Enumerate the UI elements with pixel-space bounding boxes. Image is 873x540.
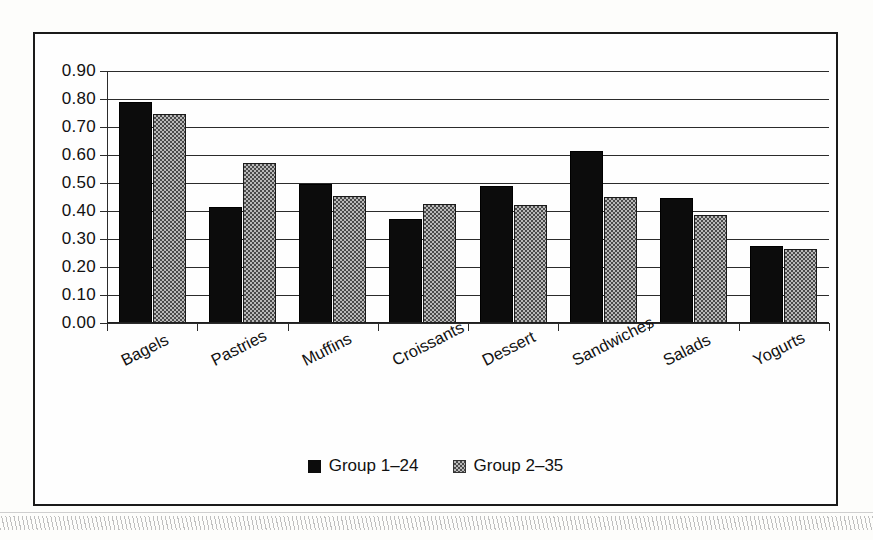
legend-swatch-icon: [453, 460, 466, 473]
y-axis-tick: [100, 183, 107, 184]
bar-group: [750, 71, 817, 323]
y-axis-tick-label: 0.30: [62, 229, 96, 249]
bar[interactable]: [243, 163, 276, 323]
y-axis-tick-label: 0.50: [62, 173, 96, 193]
bar[interactable]: [514, 205, 547, 323]
x-axis-line: [107, 322, 829, 323]
bar[interactable]: [480, 186, 513, 323]
y-axis-tick: [100, 211, 107, 212]
scan-artifact-strip: [0, 516, 873, 530]
bar[interactable]: [660, 198, 693, 323]
bar[interactable]: [119, 102, 152, 323]
x-axis-category-label: Salads: [660, 330, 714, 370]
bar[interactable]: [750, 246, 783, 323]
chart-frame: 0.900.800.700.600.500.400.300.200.100.00…: [33, 32, 838, 506]
x-axis-category-label: Croissants: [389, 318, 467, 370]
y-axis-tick: [100, 295, 107, 296]
x-axis-tick: [107, 323, 108, 331]
x-axis-tick: [378, 323, 379, 331]
y-axis-tick: [100, 155, 107, 156]
bar[interactable]: [423, 204, 456, 323]
bar[interactable]: [299, 184, 332, 323]
bar-group: [570, 71, 637, 323]
bar-group: [480, 71, 547, 323]
y-axis-tick: [100, 71, 107, 72]
scan-edge-rule: [0, 512, 873, 513]
y-axis-tick-label: 0.60: [62, 145, 96, 165]
bar-group: [389, 71, 456, 323]
chart-legend: Group 1–24Group 2–35: [35, 456, 836, 476]
bar[interactable]: [209, 207, 242, 323]
y-axis-tick: [100, 267, 107, 268]
legend-item[interactable]: Group 1–24: [308, 456, 419, 476]
legend-label: Group 1–24: [329, 456, 419, 476]
y-axis-tick-label: 0.80: [62, 89, 96, 109]
x-axis-tick: [558, 323, 559, 331]
y-axis-tick-label: 0.00: [62, 313, 96, 333]
bar[interactable]: [694, 215, 727, 323]
y-axis-tick: [100, 127, 107, 128]
bar[interactable]: [604, 197, 637, 323]
bar[interactable]: [570, 151, 603, 323]
y-axis-line: [107, 71, 108, 323]
y-axis-tick: [100, 323, 107, 324]
scanned-page: 0.900.800.700.600.500.400.300.200.100.00…: [0, 0, 873, 540]
legend-label: Group 2–35: [474, 456, 564, 476]
legend-swatch-icon: [308, 460, 321, 473]
y-axis-tick-label: 0.90: [62, 61, 96, 81]
x-axis-tick: [468, 323, 469, 331]
x-axis-category-label: Yogurts: [750, 328, 808, 370]
plot-area: 0.900.800.700.600.500.400.300.200.100.00…: [107, 71, 829, 323]
legend-item[interactable]: Group 2–35: [453, 456, 564, 476]
x-axis-category-label: Muffins: [299, 329, 355, 370]
bar[interactable]: [784, 249, 817, 323]
bar-group: [299, 71, 366, 323]
x-axis-tick: [739, 323, 740, 331]
y-axis-tick-label: 0.10: [62, 285, 96, 305]
x-axis-category-label: Dessert: [479, 327, 538, 370]
bar-group: [660, 71, 727, 323]
x-axis-tick: [829, 323, 830, 331]
y-axis-tick: [100, 99, 107, 100]
bar-group: [209, 71, 276, 323]
x-axis-tick: [288, 323, 289, 331]
y-axis-tick-label: 0.20: [62, 257, 96, 277]
bar-group: [119, 71, 186, 323]
x-axis-category-label: Pastries: [208, 326, 270, 370]
y-axis-tick: [100, 239, 107, 240]
y-axis-tick-label: 0.40: [62, 201, 96, 221]
x-axis-category-label: Bagels: [118, 330, 172, 370]
bar[interactable]: [333, 196, 366, 323]
y-axis-tick-label: 0.70: [62, 117, 96, 137]
x-axis-tick: [197, 323, 198, 331]
bar[interactable]: [153, 114, 186, 323]
bar[interactable]: [389, 219, 422, 323]
